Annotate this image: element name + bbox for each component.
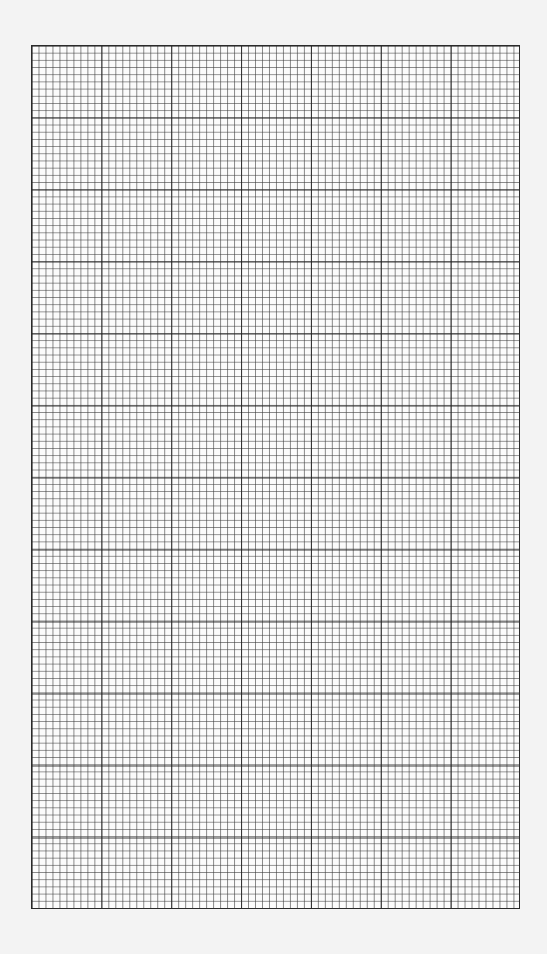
page — [0, 0, 547, 954]
graph-paper-grid — [31, 45, 520, 909]
